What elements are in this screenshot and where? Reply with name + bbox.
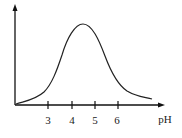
x-tick-label-6: 6 [114, 114, 120, 126]
activity-curve [16, 24, 152, 104]
x-tick-label-3: 3 [45, 114, 51, 126]
x-axis-arrow-icon [158, 103, 165, 108]
x-axis-label: pH [158, 113, 172, 125]
x-tick-label-5: 5 [92, 114, 98, 126]
x-tick-label-4: 4 [69, 114, 75, 126]
y-axis-arrow-icon [13, 4, 18, 11]
ph-activity-chart: 3 4 5 6 pH [0, 0, 182, 138]
